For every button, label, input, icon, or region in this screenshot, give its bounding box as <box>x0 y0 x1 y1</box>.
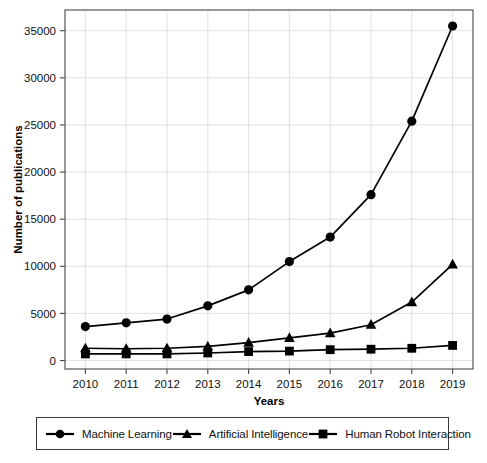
square-marker <box>407 344 416 353</box>
x-axis: 2010201120122013201420152016201720182019 <box>73 369 466 390</box>
x-tick-label: 2013 <box>195 378 221 390</box>
x-tick-label: 2010 <box>73 378 99 390</box>
square-marker <box>448 341 457 350</box>
legend-item-artificial-intelligence: Artificial Intelligence <box>172 427 308 441</box>
circle-marker <box>244 285 253 294</box>
series-line <box>85 345 452 353</box>
triangle-marker <box>366 319 377 329</box>
x-tick-label: 2014 <box>236 378 262 390</box>
square-marker <box>203 349 212 358</box>
circle-marker <box>81 322 90 331</box>
circle-marker-icon <box>45 427 75 441</box>
square-marker-icon <box>308 427 338 441</box>
line-chart: 0500010000150002000025000300003500020102… <box>0 0 487 405</box>
square-marker <box>163 350 172 359</box>
x-tick-label: 2018 <box>399 378 425 390</box>
x-tick-label: 2015 <box>277 378 303 390</box>
x-tick-label: 2019 <box>440 378 466 390</box>
x-tick-label: 2016 <box>317 378 343 390</box>
circle-marker <box>448 21 457 30</box>
circle-marker <box>162 314 171 323</box>
circle-marker <box>326 232 335 241</box>
circle-marker <box>122 318 131 327</box>
square-marker <box>81 350 90 359</box>
square-marker <box>244 347 253 356</box>
series-line <box>85 264 452 348</box>
square-marker <box>326 345 335 354</box>
legend-label-artificial-intelligence: Artificial Intelligence <box>209 428 308 440</box>
legend-item-human-robot-interaction: Human Robot Interaction <box>308 427 471 441</box>
x-tick-label: 2011 <box>114 378 139 390</box>
x-tick-label: 2017 <box>358 378 384 390</box>
y-tick-label: 10000 <box>24 260 56 272</box>
triangle-marker <box>447 259 458 269</box>
chart-legend: Machine Learning Artificial Intelligence… <box>36 417 449 450</box>
square-marker <box>122 350 131 359</box>
legend-label-human-robot-interaction: Human Robot Interaction <box>345 428 471 440</box>
series-artificial-intelligence <box>80 259 458 353</box>
y-axis: 05000100001500020000250003000035000 <box>24 25 65 367</box>
figure-container: 0500010000150002000025000300003500020102… <box>0 0 487 463</box>
circle-marker <box>203 301 212 310</box>
y-tick-label: 15000 <box>24 213 56 225</box>
y-tick-label: 25000 <box>24 119 56 131</box>
y-tick-label: 0 <box>50 355 56 367</box>
chart-plot-area: 0500010000150002000025000300003500020102… <box>0 0 487 405</box>
x-axis-title: Years <box>254 395 285 405</box>
square-marker <box>285 347 294 356</box>
series-human-robot-interaction <box>81 341 457 358</box>
circle-marker <box>366 190 375 199</box>
x-tick-label: 2012 <box>154 378 180 390</box>
grid-lines <box>65 10 473 369</box>
circle-marker <box>285 257 294 266</box>
triangle-marker-icon <box>172 427 202 441</box>
square-marker <box>367 345 376 354</box>
y-tick-label: 5000 <box>30 308 56 320</box>
y-tick-label: 20000 <box>24 166 56 178</box>
y-tick-label: 30000 <box>24 72 56 84</box>
y-tick-label: 35000 <box>24 25 56 37</box>
legend-label-machine-learning: Machine Learning <box>82 428 172 440</box>
series-machine-learning <box>81 21 457 331</box>
circle-marker <box>407 117 416 126</box>
legend-item-machine-learning: Machine Learning <box>45 427 172 441</box>
y-axis-title: Number of publications <box>12 125 24 253</box>
series-line <box>85 26 452 327</box>
